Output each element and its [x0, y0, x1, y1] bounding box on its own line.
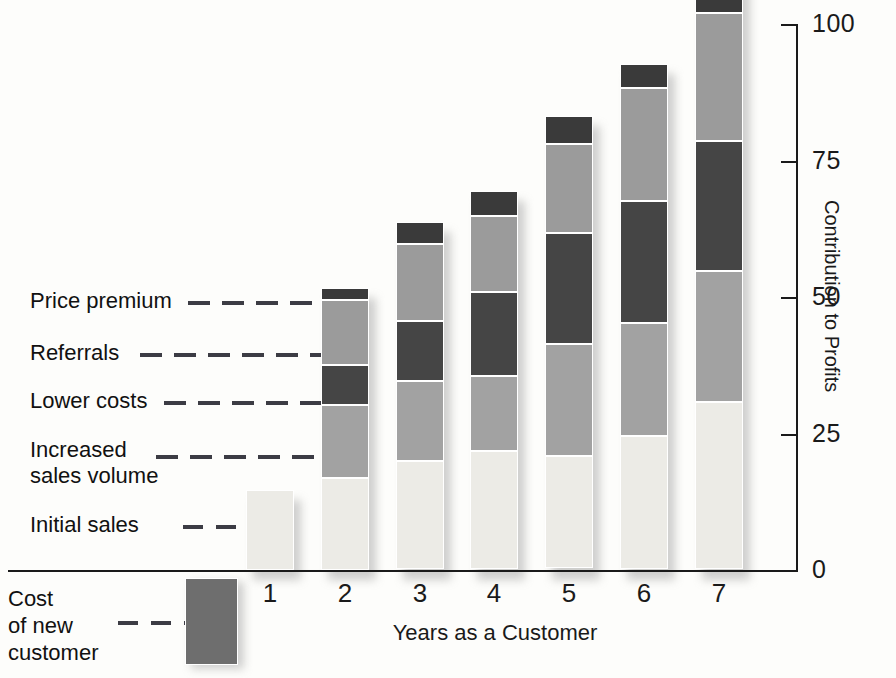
bar-segment-initial-sales[interactable] [545, 456, 593, 568]
bar-year-2[interactable] [321, 288, 369, 570]
bar-segment-initial-sales[interactable] [695, 402, 743, 569]
legend-label-lower-costs: Lower costs [30, 388, 147, 414]
leader-line-cost-of-new-customer [118, 621, 186, 625]
bar-segment-initial-sales[interactable] [620, 436, 668, 569]
leader-line-referrals [140, 353, 326, 357]
leader-line-increased-sales-volume [156, 455, 326, 459]
bar-segment-price-premium[interactable] [470, 191, 518, 216]
x-tick-label-4: 4 [470, 578, 518, 608]
bar-segment-increased-sales-volume[interactable] [321, 405, 369, 478]
y-tick-25 [781, 434, 796, 436]
y-tick-label-25: 25 [812, 421, 841, 446]
bar-segment-referrals[interactable] [620, 88, 668, 201]
x-tick-label-2: 2 [321, 578, 369, 608]
bar-segment-lower-costs[interactable] [321, 365, 369, 405]
bar-segment-price-premium[interactable] [545, 116, 593, 144]
y-tick-100 [781, 24, 796, 26]
y-tick-label-75: 75 [812, 148, 841, 173]
bar-year-6[interactable] [620, 64, 668, 570]
bar-year-7[interactable] [695, 0, 743, 570]
bar-segment-lower-costs[interactable] [620, 201, 668, 323]
bar-year-5[interactable] [545, 116, 593, 570]
bar-segment-referrals[interactable] [545, 144, 593, 233]
bar-segment-cost-of-new-customer[interactable] [185, 578, 238, 665]
y-tick-50 [781, 297, 796, 299]
bar-segment-increased-sales-volume[interactable] [470, 376, 518, 451]
bar-segment-initial-sales[interactable] [321, 478, 369, 570]
bar-segment-referrals[interactable] [695, 13, 743, 141]
bar-year-0[interactable] [185, 578, 238, 665]
legend-label-increased-sales-volume: Increased sales volume [30, 437, 158, 489]
bar-segment-increased-sales-volume[interactable] [695, 271, 743, 402]
bar-segment-price-premium[interactable] [695, 0, 743, 13]
legend-label-price-premium: Price premium [30, 288, 172, 314]
bar-segment-increased-sales-volume[interactable] [545, 344, 593, 456]
x-tick-label-3: 3 [396, 578, 444, 608]
y-axis-line [796, 24, 798, 572]
y-axis-title: Contribution to Profits [820, 200, 843, 392]
y-tick-75 [781, 161, 796, 163]
x-tick-label-5: 5 [545, 578, 593, 608]
y-tick-label-0: 0 [812, 557, 826, 582]
bar-segment-lower-costs[interactable] [470, 292, 518, 376]
x-axis-title: Years as a Customer [330, 620, 660, 646]
bar-segment-referrals[interactable] [470, 216, 518, 292]
bar-segment-initial-sales[interactable] [470, 451, 518, 569]
leader-line-lower-costs [164, 401, 330, 405]
bar-segment-price-premium[interactable] [620, 64, 668, 88]
y-tick-label-100: 100 [812, 11, 855, 36]
bar-segment-price-premium[interactable] [396, 222, 444, 244]
x-tick-label-7: 7 [695, 578, 743, 608]
chart-canvas: 0255075100 Contribution to Profits 12345… [0, 0, 896, 678]
bar-segment-referrals[interactable] [396, 244, 444, 321]
bar-segment-initial-sales[interactable] [396, 461, 444, 569]
bar-segment-lower-costs[interactable] [695, 141, 743, 271]
leader-line-price-premium [188, 301, 324, 305]
x-tick-label-6: 6 [620, 578, 668, 608]
x-axis-line [8, 570, 798, 572]
y-tick-0 [781, 570, 796, 572]
bar-year-3[interactable] [396, 222, 444, 570]
bar-segment-price-premium[interactable] [321, 288, 369, 300]
bar-segment-increased-sales-volume[interactable] [396, 381, 444, 461]
legend-label-cost-of-new-customer: Cost of new customer [8, 585, 158, 666]
legend-label-initial-sales: Initial sales [30, 512, 139, 538]
bar-segment-lower-costs[interactable] [396, 321, 444, 381]
bar-year-1[interactable] [246, 490, 294, 570]
bar-segment-increased-sales-volume[interactable] [620, 323, 668, 436]
bar-segment-lower-costs[interactable] [545, 233, 593, 344]
bar-year-4[interactable] [470, 191, 518, 570]
legend-label-referrals: Referrals [30, 340, 119, 366]
bar-segment-initial-sales[interactable] [246, 490, 294, 570]
bar-segment-referrals[interactable] [321, 300, 369, 365]
x-tick-label-1: 1 [246, 578, 294, 608]
